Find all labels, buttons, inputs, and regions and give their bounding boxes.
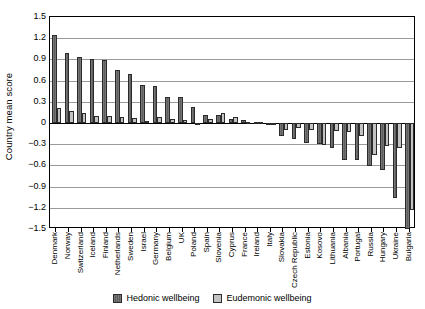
x-axis-label: Bulgaria: [402, 232, 415, 288]
bar-group: [126, 17, 139, 227]
bar-eudemonic[interactable]: [82, 113, 87, 123]
bar-hedonic[interactable]: [90, 59, 95, 123]
x-axis-label-text: Finland: [102, 232, 110, 258]
bar-group: [189, 17, 202, 227]
x-axis-label-text: France: [241, 232, 249, 257]
bar-group: [227, 17, 240, 227]
bar-eudemonic[interactable]: [322, 123, 327, 145]
x-axis-label: Cyprus: [226, 232, 239, 288]
x-axis-label: UK: [175, 232, 188, 288]
bar-group: [366, 17, 379, 227]
bar-group: [340, 17, 353, 227]
bar-eudemonic[interactable]: [397, 123, 402, 148]
x-axis-label: Germany: [150, 232, 163, 288]
bar-group: [290, 17, 303, 227]
x-axis-label: Portugal: [352, 232, 365, 288]
bar-hedonic[interactable]: [140, 85, 145, 123]
x-axis-label-text: Ireland: [253, 232, 261, 256]
x-axis-label-text: Slovenia: [215, 232, 223, 263]
x-axis-label: Iceland: [87, 232, 100, 288]
x-axis-label: Belgium: [163, 232, 176, 288]
x-axis-label: Ireland: [251, 232, 264, 288]
bar-hedonic[interactable]: [102, 60, 107, 123]
bar-eudemonic[interactable]: [170, 119, 175, 123]
y-axis-tick-label: −1.2: [16, 202, 46, 211]
legend-swatch-eudemonic: [213, 294, 222, 303]
x-axis-label-text: Slovakia: [278, 232, 286, 262]
y-axis-tick-label: 0: [16, 118, 46, 127]
bar-group: [277, 17, 290, 227]
legend-item[interactable]: Eudemonic wellbeing: [213, 294, 311, 303]
legend-label: Eudemonic wellbeing: [226, 294, 311, 303]
bar-hedonic[interactable]: [178, 97, 183, 123]
y-axis-tick-labels: 1.51.20.90.60.30−0.3−0.6−0.9−1.2−1.5: [16, 16, 46, 228]
bar-group: [88, 17, 101, 227]
x-axis-label-text: Czech Republic: [291, 232, 299, 288]
y-axis-tick-label: 1.5: [16, 12, 46, 21]
bar-eudemonic[interactable]: [57, 108, 62, 123]
y-axis-tick-label: −1.5: [16, 224, 46, 233]
bar-eudemonic[interactable]: [183, 120, 188, 123]
x-axis-label-text: Belgium: [165, 232, 173, 261]
y-axis-tick-label: −0.3: [16, 139, 46, 148]
x-axis-label: Hungary: [377, 232, 390, 288]
bar-group: [176, 17, 189, 227]
bar-group: [214, 17, 227, 227]
bar-eudemonic[interactable]: [296, 123, 301, 128]
x-axis-label-text: Ukraine: [392, 232, 400, 260]
bar-eudemonic[interactable]: [309, 123, 314, 130]
bar-hedonic[interactable]: [115, 70, 120, 123]
x-axis-label: Finland: [99, 232, 112, 288]
y-axis-tick-label: 0.6: [16, 75, 46, 84]
x-axis-label-text: Kosovo: [316, 232, 324, 259]
bar-group: [100, 17, 113, 227]
bar-group: [265, 17, 278, 227]
x-axis-label: Slovenia: [213, 232, 226, 288]
bar-eudemonic[interactable]: [359, 123, 364, 136]
x-axis-label-text: Lithuania: [329, 232, 337, 264]
y-axis-tick-label: 1.2: [16, 33, 46, 42]
bar-group: [378, 17, 391, 227]
x-axis-label: Italy: [264, 232, 277, 288]
bar-eudemonic[interactable]: [271, 123, 276, 125]
bar-eudemonic[interactable]: [107, 116, 112, 123]
bar-eudemonic[interactable]: [221, 113, 226, 123]
x-axis-label: Sweden: [125, 232, 138, 288]
y-axis-tick-label: −0.6: [16, 160, 46, 169]
legend-item[interactable]: Hedonic wellbeing: [113, 294, 199, 303]
x-axis-label: Switzerland: [74, 232, 87, 288]
bar-eudemonic[interactable]: [94, 116, 99, 123]
x-axis-label-text: Spain: [203, 232, 211, 252]
bar-group: [50, 17, 63, 227]
bar-group: [75, 17, 88, 227]
bar-eudemonic[interactable]: [284, 123, 289, 130]
legend-swatch-hedonic: [113, 294, 122, 303]
bar-eudemonic[interactable]: [69, 111, 74, 123]
bar-eudemonic[interactable]: [372, 123, 377, 155]
bar-eudemonic[interactable]: [157, 117, 162, 123]
x-axis-label: Lithuania: [327, 232, 340, 288]
bar-eudemonic[interactable]: [233, 117, 238, 123]
x-axis-label: France: [238, 232, 251, 288]
bar-eudemonic[interactable]: [195, 123, 200, 125]
bar-hedonic[interactable]: [191, 107, 196, 123]
bar-eudemonic[interactable]: [208, 119, 213, 123]
x-axis-label: Norway: [62, 232, 75, 288]
bar-eudemonic[interactable]: [334, 123, 339, 131]
bar-eudemonic[interactable]: [132, 118, 137, 123]
bar-group: [252, 17, 265, 227]
bar-group: [164, 17, 177, 227]
bar-eudemonic[interactable]: [120, 117, 125, 123]
bar-eudemonic[interactable]: [145, 121, 150, 123]
bar-eudemonic[interactable]: [246, 122, 251, 124]
x-axis-label-text: Hungary: [379, 232, 387, 262]
x-axis-label-text: Poland: [190, 232, 198, 257]
bar-eudemonic[interactable]: [410, 123, 415, 210]
x-axis-label: Slovakia: [276, 232, 289, 288]
bar-hedonic[interactable]: [128, 74, 133, 123]
bar-eudemonic[interactable]: [258, 122, 263, 124]
x-axis-label: Poland: [188, 232, 201, 288]
bar-eudemonic[interactable]: [385, 123, 390, 146]
bar-eudemonic[interactable]: [347, 123, 352, 132]
x-axis-label: Russia: [365, 232, 378, 288]
